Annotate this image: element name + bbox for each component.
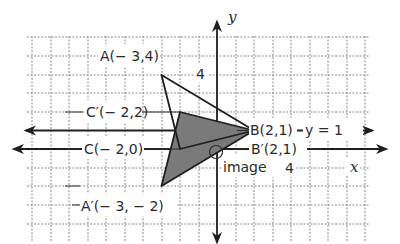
label-point-a-prime: A′(− 3, − 2) <box>81 198 164 214</box>
y-axis-label: y <box>227 8 237 26</box>
label-reflection-line: y = 1 <box>305 122 343 138</box>
label-point-b: B(2,1) <box>250 122 293 138</box>
label-point-c-prime: C′(− 2,2) <box>86 104 148 120</box>
label-point-c: C(− 2,0) <box>84 141 143 157</box>
coordinate-plane: A(− 3,4) C′(− 2,2) C(− 2,0) A′(− 3, − 2)… <box>0 0 400 244</box>
label-point-b-prime: B′(2,1) <box>251 141 297 157</box>
label-point-a: A(− 3,4) <box>100 48 159 64</box>
label-image: image <box>223 159 267 175</box>
x-tick-4: 4 <box>285 160 294 176</box>
x-axis-label: x <box>350 158 359 176</box>
y-tick-4: 4 <box>196 66 205 82</box>
